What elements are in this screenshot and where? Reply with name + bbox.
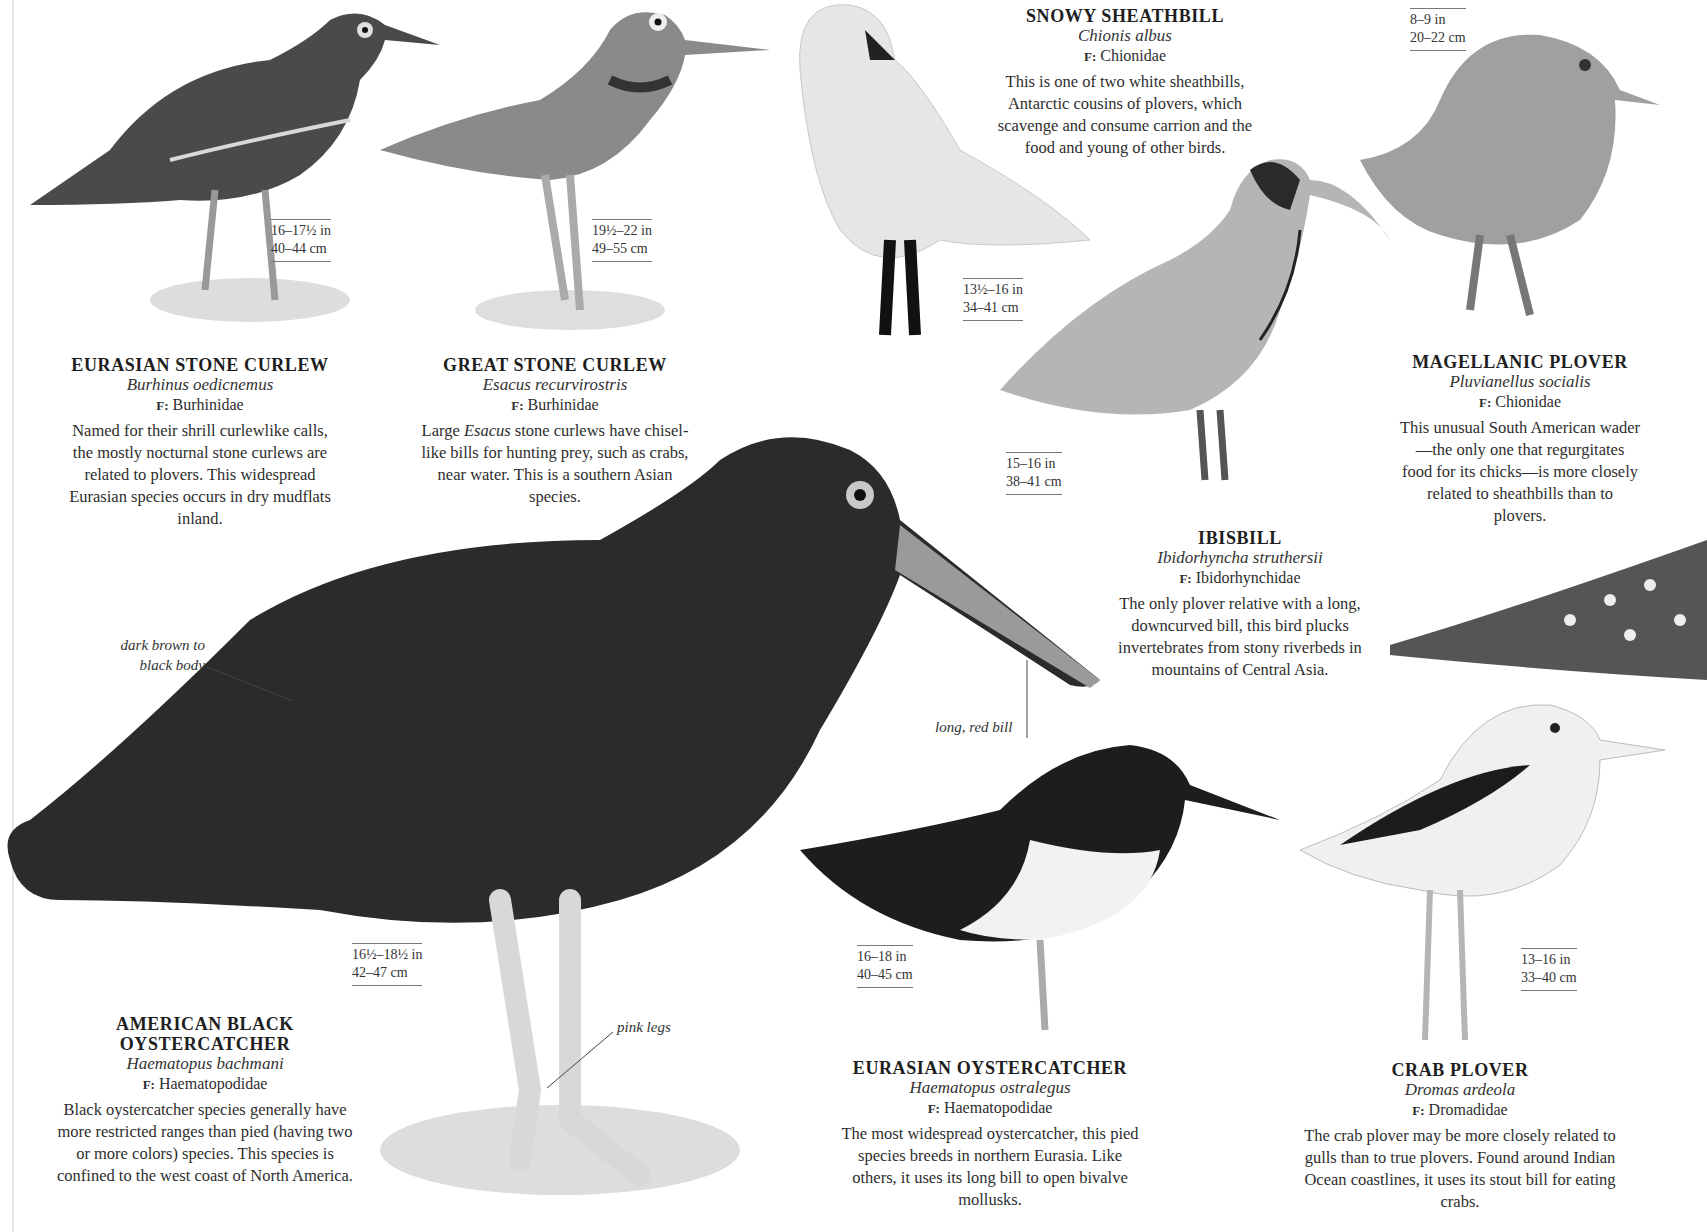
size-inches: 19½–22 in <box>592 222 652 240</box>
great-stone-curlew-illustration <box>380 0 780 340</box>
species-entry-eurasian-stone-curlew: EURASIAN STONE CURLEW Burhinus oedicnemu… <box>45 355 355 530</box>
species-entry-great-stone-curlew: GREAT STONE CURLEW Esacus recurvirostris… <box>415 355 695 508</box>
family-name: F: Dromadidae <box>1300 1100 1620 1121</box>
size-centimeters: 20–22 cm <box>1410 29 1466 47</box>
species-description: Black oystercatcher species generally ha… <box>45 1099 365 1187</box>
size-inches: 16½–18½ in <box>352 946 422 964</box>
callout-line-body <box>205 665 295 705</box>
scientific-name: Ibidorhyncha struthersii <box>1100 548 1380 568</box>
scientific-name: Burhinus oedicnemus <box>45 375 355 395</box>
size-label: 16–17½ in 40–44 cm <box>271 219 331 262</box>
species-entry-magellanic-plover: MAGELLANIC PLOVER Pluvianellus socialis … <box>1385 352 1655 527</box>
callout-body: dark brown to black body <box>85 635 205 675</box>
scientific-name: Chionis albus <box>975 26 1275 46</box>
size-centimeters: 40–45 cm <box>857 966 913 984</box>
scientific-name: Esacus recurvirostris <box>415 375 695 395</box>
size-centimeters: 40–44 cm <box>271 240 331 258</box>
family-name: F: Burhinidae <box>45 395 355 416</box>
common-name: GREAT STONE CURLEW <box>415 355 695 375</box>
species-description: The crab plover may be more closely rela… <box>1300 1125 1620 1213</box>
callout-bill: long, red bill <box>935 717 1012 737</box>
species-entry-ibisbill: IBISBILL Ibidorhyncha struthersii F: Ibi… <box>1100 528 1380 681</box>
size-label: 19½–22 in 49–55 cm <box>592 219 652 262</box>
scientific-name: Pluvianellus socialis <box>1385 372 1655 392</box>
size-centimeters: 33–40 cm <box>1521 969 1577 987</box>
scientific-name: Haematopus bachmani <box>45 1054 365 1074</box>
species-entry-american-black-oystercatcher: AMERICAN BLACK OYSTERCATCHER Haematopus … <box>45 1014 365 1187</box>
eurasian-oystercatcher-illustration <box>800 740 1290 1040</box>
crab-plover-illustration <box>1300 700 1680 1050</box>
species-description: Large Esacus stone curlews have chisel-l… <box>415 420 695 508</box>
family-name: F: Haematopodidae <box>45 1074 365 1095</box>
size-centimeters: 49–55 cm <box>592 240 652 258</box>
size-centimeters: 38–41 cm <box>1006 473 1062 491</box>
scientific-name: Haematopus ostralegus <box>835 1078 1145 1098</box>
family-name: F: Haematopodidae <box>835 1098 1145 1119</box>
common-name: SNOWY SHEATHBILL <box>975 6 1275 26</box>
common-name: IBISBILL <box>1100 528 1380 548</box>
common-name: EURASIAN STONE CURLEW <box>45 355 355 375</box>
size-inches: 8–9 in <box>1410 11 1466 29</box>
species-description: The only plover relative with a long, do… <box>1100 593 1380 681</box>
species-description: This unusual South American wader—the on… <box>1385 417 1655 527</box>
size-inches: 16–17½ in <box>271 222 331 240</box>
partial-bird-illustration <box>1390 540 1707 700</box>
common-name: MAGELLANIC PLOVER <box>1385 352 1655 372</box>
callout-legs: pink legs <box>617 1017 671 1037</box>
size-label: 16½–18½ in 42–47 cm <box>352 943 422 986</box>
species-description: This is one of two white sheathbills, An… <box>975 71 1275 159</box>
family-name: F: Chionidae <box>1385 392 1655 413</box>
species-description: Named for their shrill curlewlike calls,… <box>45 420 355 530</box>
size-inches: 15–16 in <box>1006 455 1062 473</box>
family-name: F: Burhinidae <box>415 395 695 416</box>
callout-line-bill <box>1025 660 1029 740</box>
family-name: F: Chionidae <box>975 46 1275 67</box>
common-name: CRAB PLOVER <box>1300 1060 1620 1080</box>
size-label: 8–9 in 20–22 cm <box>1410 8 1466 51</box>
size-label: 13–16 in 33–40 cm <box>1521 948 1577 991</box>
size-inches: 13½–16 in <box>963 281 1023 299</box>
size-centimeters: 42–47 cm <box>352 964 422 982</box>
species-description: The most widespread oystercatcher, this … <box>835 1123 1145 1211</box>
common-name: EURASIAN OYSTERCATCHER <box>835 1058 1145 1078</box>
size-label: 16–18 in 40–45 cm <box>857 945 913 988</box>
common-name: AMERICAN BLACK OYSTERCATCHER <box>45 1014 365 1054</box>
family-name: F: Ibidorhynchidae <box>1100 568 1380 589</box>
size-inches: 16–18 in <box>857 948 913 966</box>
scientific-name: Dromas ardeola <box>1300 1080 1620 1100</box>
species-entry-crab-plover: CRAB PLOVER Dromas ardeola F: Dromadidae… <box>1300 1060 1620 1213</box>
size-label: 15–16 in 38–41 cm <box>1006 452 1062 495</box>
species-entry-snowy-sheathbill: SNOWY SHEATHBILL Chionis albus F: Chioni… <box>975 6 1275 159</box>
size-label: 13½–16 in 34–41 cm <box>963 278 1023 321</box>
size-centimeters: 34–41 cm <box>963 299 1023 317</box>
size-inches: 13–16 in <box>1521 951 1577 969</box>
species-entry-eurasian-oystercatcher: EURASIAN OYSTERCATCHER Haematopus ostral… <box>835 1058 1145 1211</box>
callout-line-legs <box>545 1030 615 1090</box>
